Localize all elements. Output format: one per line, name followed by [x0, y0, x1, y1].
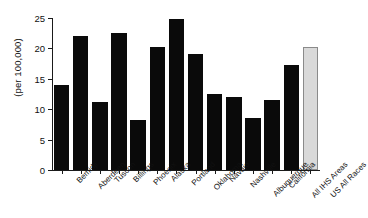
y-tick-label: 5 [40, 134, 45, 145]
plot-area: 0510152025 [52, 18, 320, 170]
y-tick-label: 20 [34, 43, 45, 54]
bar-navajo [207, 94, 222, 170]
bar-nashville [226, 97, 241, 170]
bar-alaska [150, 47, 165, 170]
y-tick-label: 15 [34, 73, 45, 84]
y-tick-mark [48, 170, 52, 171]
bar-aberdeen [73, 36, 88, 170]
bar-california [264, 100, 279, 170]
bar-all-ihs-areas [284, 65, 299, 170]
x-tick-mark [100, 170, 101, 174]
bar-oklahoma [188, 54, 203, 170]
x-tick-mark [215, 170, 216, 174]
x-tick-mark [62, 170, 63, 174]
y-tick-label: 10 [34, 104, 45, 115]
y-axis-label: (per 100,000) [12, 13, 23, 123]
bars-group [52, 18, 320, 170]
y-tick-label: 0 [40, 165, 45, 176]
bar-us-all-races [303, 47, 318, 170]
bar-portland [169, 19, 184, 170]
bar-bemidji [54, 85, 69, 170]
bar-tuscon [92, 102, 107, 170]
bar-billings [111, 33, 126, 170]
y-tick-label: 25 [34, 13, 45, 24]
x-tick-mark [253, 170, 254, 174]
